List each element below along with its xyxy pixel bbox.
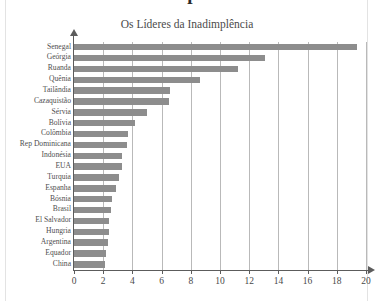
bar [74, 55, 265, 61]
bar [74, 77, 200, 83]
bar [74, 196, 112, 202]
x-axis-tick [278, 270, 279, 274]
bar-row: El Salvador [74, 216, 366, 227]
category-label: China [0, 259, 71, 269]
plot-area: 02468101214161820SenegalGeórgiaRuandaQuê… [74, 42, 366, 270]
x-axis-tick [162, 270, 163, 274]
bar-row: Cazaquistão [74, 96, 366, 107]
bar [74, 218, 109, 224]
category-label: Hungria [0, 226, 71, 236]
x-axis-tick [220, 270, 221, 274]
x-axis-tick [132, 270, 133, 274]
page-frame-right-rule [367, 0, 368, 301]
bar-row: Rep Dominicana [74, 140, 366, 151]
x-axis-tick [191, 270, 192, 274]
bar-row: EUA [74, 161, 366, 172]
x-axis-tick [74, 270, 75, 274]
x-axis-tick-label: 6 [147, 276, 177, 286]
x-axis-tick [249, 270, 250, 274]
bar [74, 185, 116, 191]
bar-row: Sérvia [74, 107, 366, 118]
category-label: Tailândia [0, 85, 71, 95]
bar [74, 239, 108, 245]
bar-row: Espanha [74, 183, 366, 194]
bar-row: Tailândia [74, 85, 366, 96]
chart-title: Os Líderes da Inadimplência [0, 18, 374, 30]
category-label: El Salvador [0, 215, 71, 225]
x-axis-tick-label: 4 [117, 276, 147, 286]
bar [74, 87, 170, 93]
category-label: Bósnia [0, 194, 71, 204]
category-label: Turquia [0, 172, 71, 182]
bar [74, 131, 128, 137]
bar [74, 229, 109, 235]
category-label: Ruanda [0, 63, 71, 73]
bar-row: Indonésia [74, 151, 366, 162]
bar-row: Ruanda [74, 64, 366, 75]
bar-row: Geórgia [74, 53, 366, 64]
bar-row: Bolívia [74, 118, 366, 129]
x-axis-tick [308, 270, 309, 274]
bar [74, 261, 105, 267]
bar [74, 174, 119, 180]
bar-row: Argentina [74, 237, 366, 248]
clipped-heading-text: Inadimplência [0, 0, 374, 5]
category-label: Quênia [0, 74, 71, 84]
category-label: Brasil [0, 204, 71, 214]
x-axis-tick [103, 270, 104, 274]
category-label: Indonésia [0, 150, 71, 160]
category-label: Espanha [0, 183, 71, 193]
x-axis-tick [337, 270, 338, 274]
bar [74, 250, 106, 256]
x-axis-tick-label: 16 [293, 276, 323, 286]
bar [74, 163, 122, 169]
x-axis-tick-label: 12 [234, 276, 264, 286]
x-axis-tick-label: 18 [322, 276, 352, 286]
category-label: Cazaquistão [0, 96, 71, 106]
bar [74, 98, 169, 104]
bar-row: Colômbia [74, 129, 366, 140]
category-label: Argentina [0, 237, 71, 247]
bar-row: China [74, 259, 366, 270]
bar-row: Senegal [74, 42, 366, 53]
bar [74, 207, 111, 213]
x-axis-arrowhead [368, 266, 375, 274]
x-axis-tick-label: 0 [59, 276, 89, 286]
x-axis-tick-label: 8 [176, 276, 206, 286]
x-axis-tick [366, 270, 367, 274]
y-axis-arrowhead [70, 29, 78, 36]
bar-row: Quênia [74, 75, 366, 86]
x-axis-tick-label: 14 [263, 276, 293, 286]
bar-row: Equador [74, 248, 366, 259]
bar-row: Turquia [74, 172, 366, 183]
bar-row: Bósnia [74, 194, 366, 205]
bar-row: Hungria [74, 227, 366, 238]
bar [74, 142, 127, 148]
category-label: EUA [0, 161, 71, 171]
bar [74, 66, 238, 72]
bar [74, 153, 122, 159]
bar [74, 120, 135, 126]
category-label: Rep Dominicana [0, 139, 71, 149]
x-axis-tick-label: 20 [351, 276, 379, 286]
category-label: Bolívia [0, 118, 71, 128]
category-label: Senegal [0, 42, 71, 52]
x-axis-tick-label: 10 [205, 276, 235, 286]
gridline [366, 42, 367, 270]
category-label: Sérvia [0, 107, 71, 117]
category-label: Equador [0, 248, 71, 258]
bar [74, 109, 147, 115]
bar [74, 44, 357, 50]
category-label: Colômbia [0, 128, 71, 138]
x-axis-tick-label: 2 [88, 276, 118, 286]
category-label: Geórgia [0, 52, 71, 62]
bar-row: Brasil [74, 205, 366, 216]
clipped-heading-above-figure: Inadimplência [0, 0, 374, 14]
